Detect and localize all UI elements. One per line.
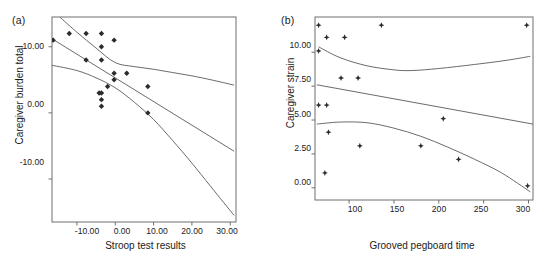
data-point [525, 183, 531, 189]
data-point [316, 102, 322, 108]
data-point [111, 71, 116, 76]
confidence-band-0 [319, 47, 531, 71]
data-point [324, 102, 330, 108]
data-point [524, 22, 530, 28]
data-point [145, 84, 150, 89]
figure-container: (a) Caregiver burden total Stroop test r… [0, 0, 537, 263]
data-point [338, 75, 344, 81]
data-point [83, 57, 88, 62]
plot-content [50, 17, 234, 215]
data-point [83, 31, 88, 36]
panel-a: (a) Caregiver burden total Stroop test r… [0, 0, 268, 263]
data-point [418, 143, 424, 149]
data-point [145, 110, 150, 115]
confidence-band-1 [52, 65, 234, 215]
data-point [99, 97, 104, 102]
data-point [111, 37, 116, 42]
confidence-band-0 [60, 17, 234, 85]
panel-a-plot-area [0, 0, 268, 263]
data-point [124, 71, 129, 76]
confidence-band-1 [317, 122, 531, 192]
panel-b-plot-area [269, 0, 537, 263]
data-point [99, 44, 104, 49]
regression-line [317, 85, 533, 124]
data-point [440, 116, 446, 122]
data-point [456, 156, 462, 162]
data-point [378, 22, 384, 28]
data-point [357, 143, 363, 149]
data-point [325, 129, 331, 135]
data-point [99, 57, 104, 62]
data-point [316, 22, 322, 28]
data-point [355, 75, 361, 81]
data-point [316, 48, 322, 54]
panel-b: (b) Caregiver strain Grooved pegboard ti… [269, 0, 537, 263]
data-point [99, 104, 104, 109]
data-point [50, 37, 55, 42]
regression-line [52, 39, 234, 151]
data-point [99, 31, 104, 36]
data-point [67, 31, 72, 36]
data-point [324, 34, 330, 40]
data-point [322, 170, 328, 176]
plot-content [316, 22, 533, 192]
plot-frame [52, 17, 236, 222]
data-point [342, 34, 348, 40]
